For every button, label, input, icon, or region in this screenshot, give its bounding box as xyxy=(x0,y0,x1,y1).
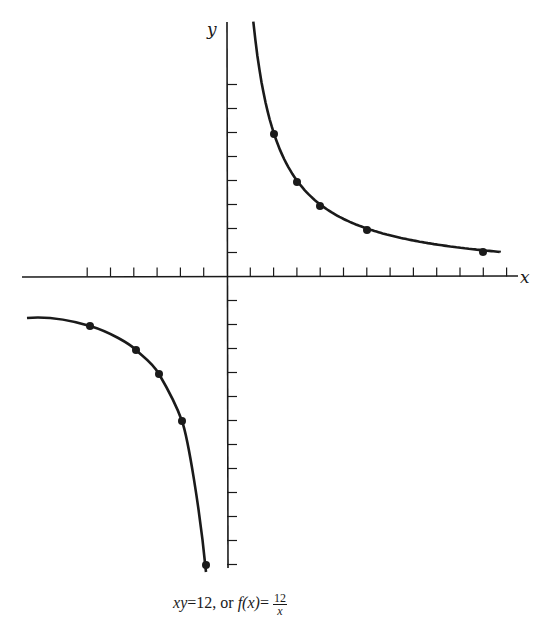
x-axis xyxy=(22,276,518,277)
data-point xyxy=(479,248,487,256)
data-point xyxy=(86,322,94,330)
data-point xyxy=(202,561,210,569)
data-point xyxy=(155,370,163,378)
caption-fraction: 12 x xyxy=(273,592,287,617)
data-point xyxy=(132,346,140,354)
y-axis xyxy=(227,22,228,568)
hyperbola-chart: x y xyxy=(0,0,553,641)
data-point xyxy=(178,417,186,425)
caption-eq2: = xyxy=(260,594,269,611)
data-points xyxy=(86,130,487,569)
data-point xyxy=(316,202,324,210)
x-axis-label: x xyxy=(520,267,530,287)
hyperbola-curves xyxy=(27,22,500,572)
caption-eq1: =12, or xyxy=(187,594,237,611)
curve-positive-branch xyxy=(253,22,499,253)
data-point xyxy=(363,226,371,234)
x-axis-ticks xyxy=(87,268,506,277)
y-axis-label: y xyxy=(206,19,217,39)
data-point xyxy=(270,130,278,138)
data-point xyxy=(293,178,301,186)
curve-negative-branch xyxy=(27,317,206,572)
caption-fx: (x) xyxy=(242,594,260,611)
chart-caption: xy=12, or f(x)= 12 x xyxy=(0,592,460,617)
axes xyxy=(22,22,518,568)
caption-lhs: xy xyxy=(173,594,187,611)
caption-denominator: x xyxy=(273,605,287,617)
y-axis-ticks xyxy=(227,85,237,565)
